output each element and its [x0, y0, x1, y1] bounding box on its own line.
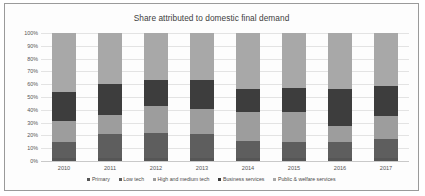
y-axis-tick-label: 40%	[27, 107, 38, 113]
bar-segment[interactable]	[144, 106, 169, 133]
bar-segment[interactable]	[374, 86, 399, 117]
stacked-bar[interactable]	[52, 33, 77, 161]
x-axis-tick-label: 2015	[273, 165, 314, 171]
x-axis-tick-label: 2017	[365, 165, 406, 171]
bar-segment[interactable]	[328, 142, 353, 159]
bar-column: 2017	[365, 33, 406, 161]
stacked-bar[interactable]	[282, 33, 307, 161]
y-axis-tick-label: 10%	[27, 145, 38, 151]
x-axis-tick-label: 2011	[89, 165, 130, 171]
bar-segment[interactable]	[144, 133, 169, 159]
stacked-bar[interactable]	[328, 33, 353, 161]
bar-column: 2010	[43, 33, 84, 161]
legend-swatch-icon	[273, 178, 276, 181]
bar-column: 2013	[181, 33, 222, 161]
bar-column: 2016	[319, 33, 360, 161]
bar-column: 2015	[273, 33, 314, 161]
legend-label: Business services	[223, 176, 265, 182]
bar-segment[interactable]	[282, 33, 307, 88]
bar-segment[interactable]	[98, 33, 123, 84]
legend-swatch-icon	[218, 178, 221, 181]
bar-segment[interactable]	[374, 158, 399, 161]
y-axis-tick-label: 30%	[27, 120, 38, 126]
legend-swatch-icon	[119, 178, 122, 181]
bar-segment[interactable]	[328, 33, 353, 89]
bar-segment[interactable]	[190, 134, 215, 158]
legend-label: High and medium tech	[158, 176, 210, 182]
bar-segment[interactable]	[144, 80, 169, 106]
bar-segment[interactable]	[236, 89, 261, 112]
bar-segment[interactable]	[236, 112, 261, 140]
stacked-bar[interactable]	[374, 33, 399, 161]
x-axis-tick-label: 2016	[319, 165, 360, 171]
bar-segment[interactable]	[98, 134, 123, 158]
plot-area: 0%10%20%30%40%50%60%70%80%90%100% 201020…	[41, 33, 409, 161]
bar-segment[interactable]	[98, 84, 123, 115]
stacked-bar[interactable]	[236, 33, 261, 161]
bar-group: 20102011201220132014201520162017	[41, 33, 409, 161]
bar-column: 2011	[89, 33, 130, 161]
y-axis-tick-label: 80%	[27, 56, 38, 62]
bar-segment[interactable]	[52, 121, 77, 141]
bar-column: 2014	[227, 33, 268, 161]
bar-segment[interactable]	[282, 142, 307, 159]
bar-segment[interactable]	[144, 33, 169, 80]
bar-segment[interactable]	[328, 158, 353, 161]
y-axis-tick-label: 0%	[30, 158, 38, 164]
legend-item[interactable]: Primary	[87, 176, 109, 182]
x-axis-tick-label: 2012	[135, 165, 176, 171]
legend-item[interactable]: High and medium tech	[153, 176, 209, 182]
bar-segment[interactable]	[328, 89, 353, 126]
legend-label: Primary	[92, 176, 110, 182]
y-axis-tick-label: 60%	[27, 81, 38, 87]
chart-legend: PrimaryLow techHigh and medium techBusin…	[5, 176, 418, 182]
bar-segment[interactable]	[374, 33, 399, 85]
bar-segment[interactable]	[144, 158, 169, 161]
stacked-bar[interactable]	[144, 33, 169, 161]
bar-segment[interactable]	[52, 158, 77, 161]
bar-segment[interactable]	[374, 116, 399, 139]
bar-segment[interactable]	[190, 80, 215, 108]
legend-label: Low tech	[123, 176, 144, 182]
bar-segment[interactable]	[328, 126, 353, 141]
bar-segment[interactable]	[282, 88, 307, 112]
bar-segment[interactable]	[52, 33, 77, 92]
bar-segment[interactable]	[190, 33, 215, 80]
x-axis-tick-label: 2010	[43, 165, 84, 171]
y-axis-tick-label: 20%	[27, 132, 38, 138]
y-axis-tick-label: 90%	[27, 43, 38, 49]
x-axis-tick-label: 2013	[181, 165, 222, 171]
bar-segment[interactable]	[98, 158, 123, 161]
bar-segment[interactable]	[236, 33, 261, 89]
legend-swatch-icon	[87, 178, 90, 181]
bar-segment[interactable]	[374, 139, 399, 158]
bar-segment[interactable]	[236, 158, 261, 161]
legend-item[interactable]: Low tech	[119, 176, 144, 182]
gridline	[41, 161, 409, 162]
legend-item[interactable]: Business services	[218, 176, 264, 182]
bar-segment[interactable]	[190, 109, 215, 135]
bar-segment[interactable]	[282, 158, 307, 161]
bar-segment[interactable]	[98, 115, 123, 134]
bar-column: 2012	[135, 33, 176, 161]
chart-title: Share attributed to domestic final deman…	[5, 13, 418, 23]
bar-segment[interactable]	[52, 142, 77, 159]
bar-segment[interactable]	[236, 141, 261, 159]
stacked-bar[interactable]	[190, 33, 215, 161]
bar-segment[interactable]	[52, 92, 77, 121]
stacked-bar[interactable]	[98, 33, 123, 161]
chart-frame: Share attributed to domestic final deman…	[4, 3, 419, 191]
y-axis-tick-label: 70%	[27, 68, 38, 74]
x-axis-tick-label: 2014	[227, 165, 268, 171]
legend-item[interactable]: Public & welfare services	[273, 176, 335, 182]
legend-swatch-icon	[153, 178, 156, 181]
bar-segment[interactable]	[190, 158, 215, 161]
y-axis-tick-label: 100%	[24, 30, 38, 36]
legend-label: Public & welfare services	[278, 176, 336, 182]
y-axis-tick-label: 50%	[27, 94, 38, 100]
bar-segment[interactable]	[282, 112, 307, 141]
